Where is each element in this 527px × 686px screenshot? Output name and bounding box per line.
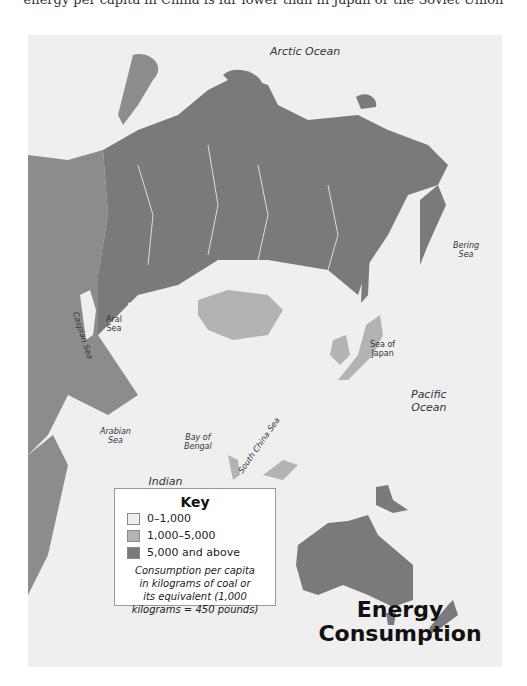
label-bering-line1: Bering — [453, 241, 479, 250]
swatch-high — [127, 547, 140, 559]
new-guinea — [376, 485, 408, 513]
label-arabian-line1: Arabian — [100, 427, 131, 436]
label-bay-of-bengal: Bay ofBengal — [184, 433, 212, 451]
key-item-mid: 1,000–5,000 — [127, 527, 275, 544]
label-sea-of-japan: Sea ofJapan — [370, 340, 395, 358]
aral-sea — [128, 301, 138, 313]
label-aral-line2: Sea — [106, 324, 121, 333]
key-item-low: 0–1,000 — [127, 510, 275, 527]
label-arabian-line2: Sea — [108, 436, 123, 445]
region-mongolia — [198, 290, 283, 340]
kamchatka — [420, 185, 446, 265]
label-bering-line2: Sea — [459, 250, 474, 259]
swatch-low — [127, 513, 140, 525]
page-caption: energy per capita in China is far lower … — [0, 0, 527, 8]
map-title: Energy Consumption — [300, 598, 500, 646]
swatch-mid — [127, 530, 140, 542]
label-pacific-line1: Pacific — [411, 388, 447, 401]
label-pacific-ocean: PacificOcean — [411, 388, 447, 414]
key-label-low: 0–1,000 — [147, 512, 191, 525]
label-bering-sea: BeringSea — [453, 241, 479, 259]
key-item-high: 5,000 and above — [127, 544, 275, 561]
key-title: Key — [115, 494, 275, 510]
key-label-high: 5,000 and above — [147, 546, 240, 559]
novaya-zemlya — [118, 54, 158, 125]
key-note: Consumption per capita in kilograms of c… — [115, 564, 275, 616]
key-note-line1: Consumption per capita — [135, 565, 255, 576]
australia — [296, 515, 413, 607]
region-africa-horn — [28, 435, 68, 595]
key-note-line4: kilograms = 450 pounds) — [132, 604, 259, 615]
label-arctic-ocean: Arctic Ocean — [270, 45, 340, 58]
label-bengal-line2: Bengal — [184, 442, 212, 451]
region-korea — [330, 335, 350, 365]
key-note-line2: in kilograms of coal or — [139, 578, 250, 589]
label-japan-line1: Sea of — [370, 340, 395, 349]
map-key: Key 0–1,000 1,000–5,000 5,000 and above … — [114, 488, 276, 606]
new-siberian-islands — [356, 94, 376, 109]
label-aral-line1: Aral — [106, 315, 122, 324]
label-bengal-line1: Bay of — [185, 433, 210, 442]
map-title-line2: Consumption — [318, 621, 481, 646]
key-note-line3: its equivalent (1,000 — [143, 591, 247, 602]
label-pacific-line2: Ocean — [411, 401, 446, 414]
label-arabian-sea: ArabianSea — [100, 427, 131, 445]
map-title-line1: Energy — [357, 597, 444, 622]
label-aral-sea: AralSea — [106, 315, 122, 333]
label-japan-line2: Japan — [371, 349, 393, 358]
label-indian-line1: Indian — [149, 475, 183, 488]
region-borneo — [263, 460, 298, 480]
key-label-mid: 1,000–5,000 — [147, 529, 215, 542]
